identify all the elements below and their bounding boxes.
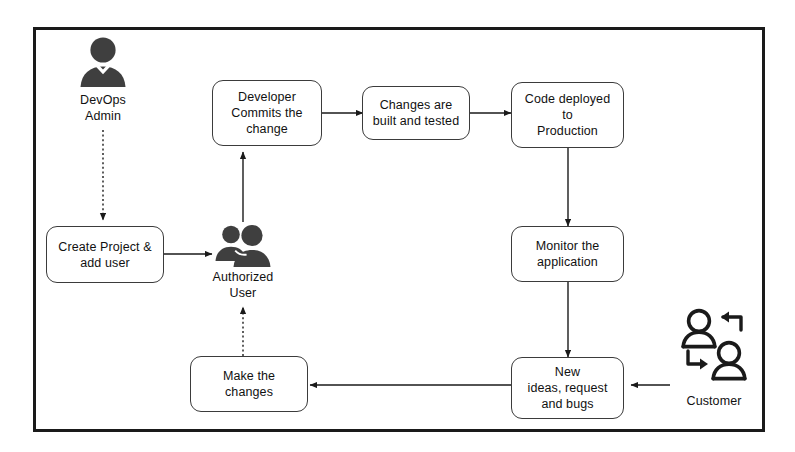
devops-admin-label-line1: DevOps [53, 93, 153, 109]
single-person-filled-icon [78, 35, 128, 87]
two-people-filled-icon [214, 224, 272, 268]
box-monitor-application-label: Monitor the application [536, 238, 600, 270]
authorized-user-label-line1: Authorized [193, 270, 293, 286]
authorized-user-label-line2: User [193, 286, 293, 302]
box-changes-built-label: Changes are built and tested [373, 97, 459, 129]
two-people-outline-exchange-icon [679, 308, 749, 390]
box-changes-built[interactable]: Changes are built and tested [362, 86, 470, 140]
box-code-deployed[interactable]: Code deployed to Production [511, 82, 624, 148]
customer-label: Customer [665, 394, 763, 410]
box-create-project-label: Create Project & add user [58, 239, 151, 271]
box-developer-commits[interactable]: Developer Commits the change [212, 80, 322, 146]
devops-admin-label-line2: Admin [53, 109, 153, 125]
box-developer-commits-label: Developer Commits the change [231, 89, 302, 137]
box-make-changes-label: Make the changes [223, 368, 275, 400]
box-new-ideas[interactable]: New ideas, request and bugs [511, 357, 624, 419]
box-code-deployed-label: Code deployed to Production [525, 91, 610, 139]
authorized-user-label: Authorized User [193, 270, 293, 301]
box-make-changes[interactable]: Make the changes [190, 356, 308, 412]
box-new-ideas-label: New ideas, request and bugs [528, 364, 608, 412]
box-monitor-application[interactable]: Monitor the application [511, 226, 624, 282]
diagram-canvas: DevOps Admin Authorized User [0, 0, 795, 452]
box-create-project[interactable]: Create Project & add user [46, 226, 164, 283]
devops-admin-label: DevOps Admin [53, 93, 153, 124]
